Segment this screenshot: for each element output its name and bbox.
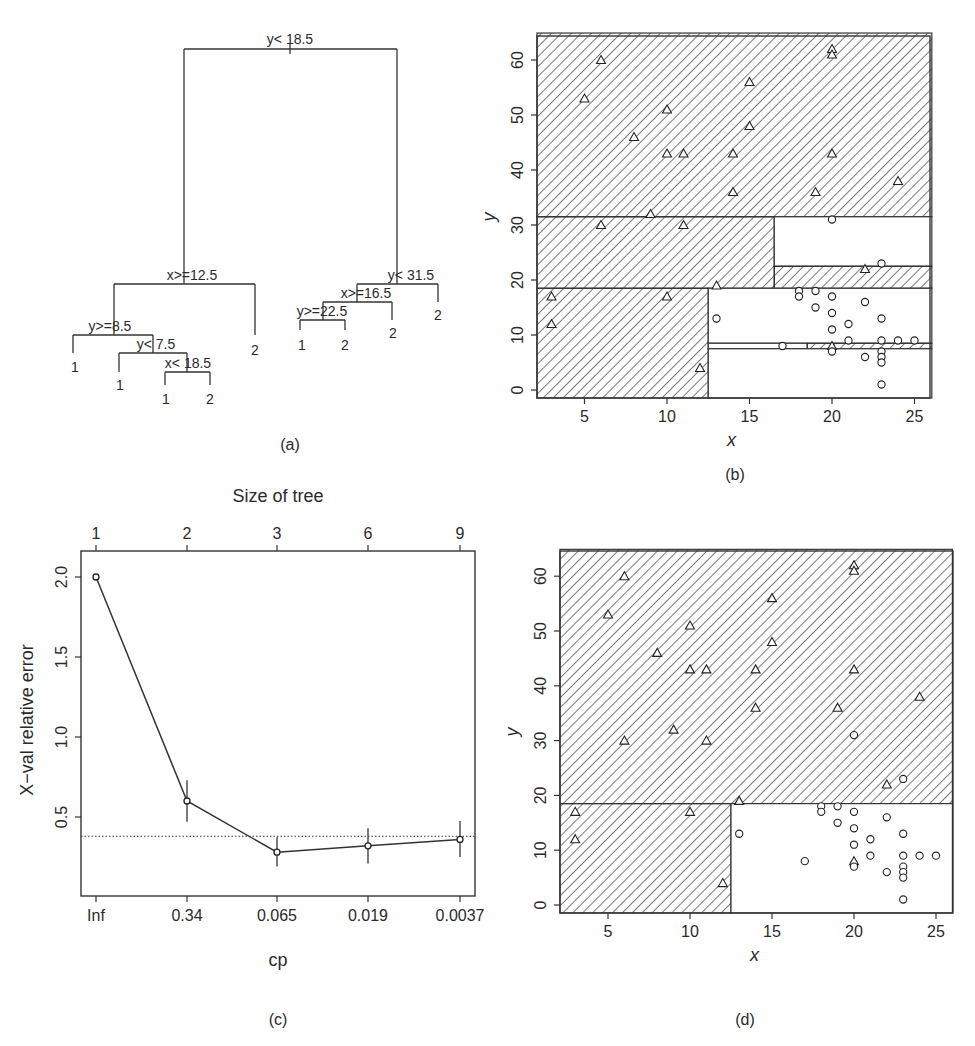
top-axis-label: Size of tree — [232, 486, 323, 506]
circle-point — [828, 293, 835, 300]
circle-point — [861, 353, 868, 360]
tree-label: y>=8.5 — [89, 318, 132, 334]
x-tick-label: 25 — [906, 408, 924, 425]
tree-label: 1 — [71, 359, 79, 375]
y-axis-label: X−val relative error — [17, 644, 37, 796]
data-point — [274, 849, 280, 855]
y-axis-label: y — [502, 727, 522, 739]
plot-frame — [81, 551, 475, 896]
circle-point — [900, 775, 907, 782]
tree-label: y< 18.5 — [267, 31, 314, 47]
circle-point — [850, 732, 857, 739]
circle-point — [900, 852, 907, 859]
tree-label: 2 — [389, 325, 397, 341]
circle-point — [883, 869, 890, 876]
x-axis-label: x — [726, 430, 737, 450]
x-tick-label: 0.065 — [257, 907, 297, 924]
circle-point — [801, 858, 808, 865]
top-tick-label: 9 — [456, 525, 465, 542]
region-class-2 — [537, 288, 708, 398]
data-point — [93, 574, 99, 580]
y-tick-label: 1.5 — [53, 646, 70, 668]
circle-point — [850, 841, 857, 848]
x-tick-label: 25 — [927, 923, 945, 940]
data-point — [365, 843, 371, 849]
panel-c-caption: (c) — [269, 1011, 288, 1028]
panel-b-partition-plot: 5101520250102030405060xy — [479, 33, 932, 450]
y-axis-label: y — [479, 212, 499, 224]
region-class-1 — [774, 217, 932, 267]
y-tick-label: 50 — [509, 106, 526, 124]
region-class-2 — [560, 549, 952, 803]
circle-point — [878, 260, 885, 267]
circle-point — [878, 359, 885, 366]
tree-label: y< 7.5 — [137, 336, 176, 352]
y-tick-label: 50 — [532, 622, 549, 640]
y-tick-label: 30 — [532, 732, 549, 750]
tree-label: y< 31.5 — [388, 267, 435, 283]
circle-point — [828, 216, 835, 223]
tree-label: 2 — [251, 342, 259, 358]
y-tick-label: 60 — [532, 567, 549, 585]
tree-label: x>=16.5 — [341, 285, 392, 301]
region-class-1 — [708, 349, 932, 398]
circle-point — [850, 863, 857, 870]
tree-label: 2 — [341, 337, 349, 353]
circle-point — [932, 852, 939, 859]
y-tick-label: 60 — [509, 51, 526, 69]
circle-point — [812, 304, 819, 311]
region-class-2 — [774, 266, 932, 288]
circle-point — [894, 337, 901, 344]
circle-point — [850, 808, 857, 815]
x-tick-label: 10 — [681, 923, 699, 940]
circle-point — [878, 337, 885, 344]
circle-point — [795, 293, 802, 300]
panel-d-partition-plot: 5101520250102030405060xy — [502, 549, 953, 965]
y-tick-label: 0 — [532, 900, 549, 909]
x-tick-label: 0.019 — [348, 907, 388, 924]
circle-point — [828, 326, 835, 333]
circle-point — [861, 298, 868, 305]
y-tick-label: 40 — [532, 677, 549, 695]
region-class-1 — [708, 343, 807, 349]
circle-point — [834, 803, 841, 810]
top-tick-label: 2 — [183, 525, 192, 542]
y-tick-label: 0.5 — [53, 806, 70, 828]
circle-point — [850, 825, 857, 832]
data-point — [184, 798, 190, 804]
error-line — [96, 577, 460, 852]
circle-point — [713, 315, 720, 322]
y-tick-label: 0 — [509, 385, 526, 394]
circle-point — [883, 814, 890, 821]
circle-point — [900, 896, 907, 903]
y-tick-label: 20 — [532, 786, 549, 804]
y-tick-label: 1.0 — [53, 726, 70, 748]
y-tick-label: 20 — [509, 271, 526, 289]
circle-point — [878, 315, 885, 322]
region-class-1 — [708, 288, 932, 343]
x-tick-label: 15 — [763, 923, 781, 940]
circle-point — [845, 337, 852, 344]
tree-label: 2 — [206, 391, 214, 407]
tree-label: y>=22.5 — [297, 303, 348, 319]
circle-point — [916, 852, 923, 859]
circle-point — [900, 874, 907, 881]
circle-point — [812, 287, 819, 294]
data-point — [457, 836, 463, 842]
x-tick-label: 5 — [604, 923, 613, 940]
tree-label: 1 — [162, 391, 170, 407]
y-tick-label: 40 — [509, 161, 526, 179]
circle-point — [911, 337, 918, 344]
top-tick-label: 3 — [273, 525, 282, 542]
circle-point — [828, 309, 835, 316]
tree-label: 1 — [116, 377, 124, 393]
y-tick-label: 2.0 — [53, 566, 70, 588]
tree-label: x>=12.5 — [167, 267, 218, 283]
x-tick-label: 20 — [823, 408, 841, 425]
region-class-2 — [560, 804, 731, 913]
y-tick-label: 30 — [509, 216, 526, 234]
panel-a-tree: y< 18.5x>=12.52y>=8.51y< 7.51x< 18.512y<… — [71, 31, 442, 407]
panel-d-caption: (d) — [735, 1011, 755, 1028]
figure: y< 18.5x>=12.52y>=8.51y< 7.51x< 18.512y<… — [0, 0, 975, 1046]
top-tick-label: 6 — [364, 525, 373, 542]
